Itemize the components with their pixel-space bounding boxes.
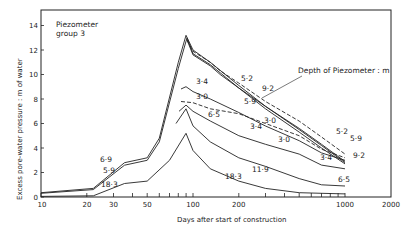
curve-label: 5·9 [103, 166, 115, 175]
x-axis [41, 193, 345, 197]
y-axis-title: Excess pore-water pressure : m of water [16, 58, 24, 200]
curve-label: 3·4 [320, 153, 332, 162]
curve-label: 11·9 [252, 165, 269, 174]
x-tick-label: 30 [109, 201, 118, 209]
curve-label: 6·5 [338, 175, 350, 184]
curve-18-3 [41, 133, 345, 196]
curve-5-2 [187, 40, 345, 154]
curve-3-0 [181, 102, 345, 158]
curve-label: 6·9 [100, 155, 112, 164]
curve-label: 5·9 [350, 134, 362, 143]
y-tick-label: 14 [29, 22, 38, 30]
curve-label: 5·2 [336, 127, 348, 136]
curve-label: 18·3 [101, 180, 118, 189]
y-tick-label: 12 [29, 47, 38, 55]
curve-label: 3·4 [250, 122, 262, 131]
curve-6-9 [41, 35, 345, 192]
y-tick-labels: 0 2 4 6 8 10 12 14 [29, 22, 38, 202]
curves [41, 35, 345, 196]
y-tick-label: 2 [34, 169, 38, 177]
curve-labels: 6·9 5·9 18·3 3·4 3·0 6·5 5·2 9·2 5·9 3·0… [100, 74, 365, 189]
x-tick-labels: 10 20 30 50 100 200 1000 2000 [38, 201, 400, 209]
x-tick-label: 100 [186, 201, 199, 209]
curve-label: 18·3 [225, 172, 242, 181]
curve-label: 9·2 [353, 151, 365, 160]
curve-label: 5·2 [241, 74, 253, 83]
curve-label: 3·0 [196, 92, 208, 101]
y-tick-label: 6 [34, 120, 39, 128]
curve-11-9 [176, 109, 345, 186]
curve-label: 5·9 [244, 97, 256, 106]
chart-title-line2: group 3 [56, 29, 85, 38]
x-tick-label: 1000 [336, 201, 354, 209]
x-tick-label: 200 [232, 201, 245, 209]
plot-frame [41, 10, 391, 197]
x-tick-label: 10 [38, 201, 47, 209]
depth-annotation: Depth of Piezometer : m [298, 66, 390, 75]
curve-label: 3·0 [264, 116, 276, 125]
curve-label: 6·5 [208, 110, 220, 119]
curve-label: 9·2 [262, 84, 274, 93]
pore-pressure-chart: 0 2 4 6 8 10 12 14 10 20 30 50 100 20 [0, 0, 416, 236]
curve-5-9 [41, 38, 345, 194]
y-tick-label: 4 [34, 145, 39, 153]
y-tick-label: 8 [34, 96, 38, 104]
curve-label: 3·4 [196, 77, 208, 86]
curve-label: 3·0 [278, 135, 290, 144]
x-tick-label: 20 [83, 201, 92, 209]
curve-9-2 [187, 40, 345, 162]
chart-title-line1: Piezometer [56, 20, 99, 29]
x-tick-label: 50 [143, 201, 152, 209]
x-tick-label: 2000 [382, 201, 400, 209]
x-axis-title: Days after start of construction [177, 216, 287, 224]
y-tick-label: 10 [29, 71, 38, 79]
